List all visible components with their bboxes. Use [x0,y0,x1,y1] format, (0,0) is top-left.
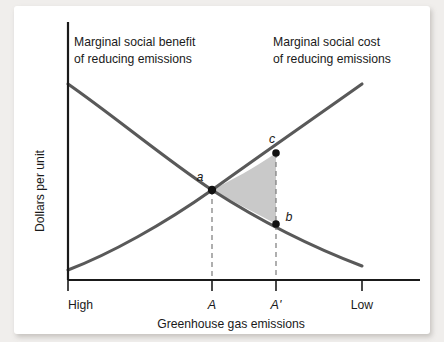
marginal-social-benefit-curve [68,84,362,266]
marginal-social-cost-curve [68,84,362,270]
point-c-label: c [269,132,276,146]
msc-label-line2: of reducing emissions [273,52,391,66]
point-c-marker [272,149,280,157]
point-a-label: a [197,170,204,184]
shaded-deadweight-loss-region [212,153,276,224]
y-axis-title: Dollars per unit [33,149,47,232]
point-a-marker [208,186,216,194]
msb-label-line1: Marginal social benefit [74,35,196,49]
x-tick-label-a-prime: A' [270,298,282,312]
point-b-label: b [286,210,293,224]
figure-panel: Marginal social benefit of reducing emis… [14,6,430,334]
x-tick-label-low: Low [351,298,374,312]
x-tick-label-a: A [207,298,216,312]
msb-label-line2: of reducing emissions [74,52,192,66]
x-tick-label-high: High [68,298,93,312]
economics-chart: Marginal social benefit of reducing emis… [14,6,430,334]
x-axis-title: Greenhouse gas emissions [157,317,305,331]
point-b-marker [272,220,280,228]
msc-label-line1: Marginal social cost [273,35,381,49]
